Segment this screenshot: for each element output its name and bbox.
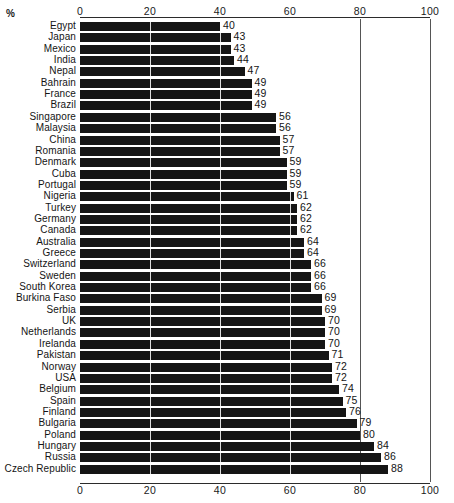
bar-value-label: 80	[363, 429, 375, 440]
bar-row: Greece64	[0, 248, 454, 259]
bar	[80, 374, 332, 383]
bar-category-label: Romania	[35, 145, 76, 156]
bar-category-label: Australia	[36, 236, 76, 247]
bar-category-label: Greece	[43, 247, 76, 258]
plot-area: Egypt40Japan43Mexico43India44Nepal47Bahr…	[0, 19, 454, 482]
bar-row: Russia86	[0, 452, 454, 463]
bar-value-label: 57	[283, 134, 295, 145]
bar-category-label: Russia	[45, 451, 76, 462]
bar	[80, 79, 252, 88]
bar	[80, 294, 322, 303]
bar-value-label: 47	[248, 65, 260, 76]
bar-category-label: Hungary	[38, 440, 77, 451]
bar-row: Czech Republic88	[0, 464, 454, 475]
bar	[80, 351, 329, 360]
bar-row: Denmark59	[0, 157, 454, 168]
bar-value-label: 59	[290, 179, 302, 190]
x-tick-label: 20	[144, 484, 156, 496]
bar	[80, 340, 325, 349]
bar-value-label: 66	[314, 281, 326, 292]
bar-value-label: 49	[255, 99, 267, 110]
bar-row: Finland76	[0, 407, 454, 418]
x-tick-label: 80	[354, 484, 366, 496]
gridline	[290, 19, 291, 482]
bar-category-label: Sweden	[39, 270, 76, 281]
bar	[80, 215, 297, 224]
bar-row: China57	[0, 135, 454, 146]
x-tick-label: 0	[77, 484, 83, 496]
bar-row: Brazil49	[0, 100, 454, 111]
bar-row: Romania57	[0, 146, 454, 157]
x-axis-bottom: 020406080100	[0, 484, 454, 498]
bar-category-label: Finland	[43, 406, 77, 417]
bar-category-label: Burkina Faso	[16, 292, 76, 303]
bar	[80, 397, 343, 406]
bar	[80, 249, 304, 258]
bar	[80, 272, 311, 281]
bar-category-label: Singapore	[30, 111, 77, 122]
x-tick-label: 60	[284, 5, 296, 17]
bar-row: UK70	[0, 316, 454, 327]
bar-row: Bulgaria79	[0, 418, 454, 429]
bar-row: Netherlands70	[0, 327, 454, 338]
bar-row: Egypt40	[0, 21, 454, 32]
x-tick-label: 20	[144, 5, 156, 17]
bar-value-label: 44	[237, 54, 249, 65]
bar-row: Germany62	[0, 214, 454, 225]
x-tick-label: 60	[284, 484, 296, 496]
bar-row: South Korea66	[0, 282, 454, 293]
bar	[80, 453, 381, 462]
bar	[80, 317, 325, 326]
bar-row: Turkey62	[0, 203, 454, 214]
bar-value-label: 69	[325, 304, 337, 315]
bar-row: Canada62	[0, 225, 454, 236]
bar-row: Portugal59	[0, 180, 454, 191]
bar	[80, 328, 325, 337]
gridline	[150, 19, 151, 482]
bar-row: Pakistan71	[0, 350, 454, 361]
bar-value-label: 86	[384, 451, 396, 462]
x-tick-label: 100	[421, 5, 439, 17]
bar-category-label: Nigeria	[44, 190, 76, 201]
axis-rule-top	[80, 17, 430, 18]
bar-row: Nigeria61	[0, 191, 454, 202]
bar	[80, 158, 287, 167]
x-tick-label: 40	[214, 5, 226, 17]
bar-value-label: 71	[332, 349, 344, 360]
bar-value-label: 62	[300, 224, 312, 235]
bar	[80, 136, 280, 145]
bar-category-label: UK	[62, 315, 76, 326]
x-tick-label: 80	[354, 5, 366, 17]
x-tick-label: 100	[421, 484, 439, 496]
x-tick-label: 0	[77, 5, 83, 17]
bar-row: Spain75	[0, 396, 454, 407]
bar-value-label: 56	[279, 122, 291, 133]
bar	[80, 204, 297, 213]
bar	[80, 45, 231, 54]
bar	[80, 465, 388, 474]
bar-category-label: Belgium	[39, 383, 76, 394]
bar-category-label: Netherlands	[21, 326, 76, 337]
bar-row: Singapore56	[0, 112, 454, 123]
bar-category-label: India	[54, 54, 76, 65]
bar-value-label: 79	[360, 417, 372, 428]
bar-value-label: 40	[223, 20, 235, 31]
bar-category-label: USA	[55, 372, 76, 383]
bar-value-label: 62	[300, 213, 312, 224]
bar-row: Burkina Faso69	[0, 293, 454, 304]
bar-category-label: Norway	[42, 361, 77, 372]
bar-category-label: Pakistan	[37, 349, 76, 360]
bar-row: Malaysia56	[0, 123, 454, 134]
bar	[80, 90, 252, 99]
bar	[80, 442, 374, 451]
bar-value-label: 72	[335, 372, 347, 383]
bar-row: Irelanda70	[0, 339, 454, 350]
bar-row: France49	[0, 89, 454, 100]
bar-value-label: 70	[328, 315, 340, 326]
bar	[80, 192, 294, 201]
bar-category-label: Portugal	[38, 179, 76, 190]
bar-category-label: France	[44, 88, 76, 99]
bar	[80, 238, 304, 247]
bar-category-label: China	[49, 134, 76, 145]
bar-row: Australia64	[0, 237, 454, 248]
